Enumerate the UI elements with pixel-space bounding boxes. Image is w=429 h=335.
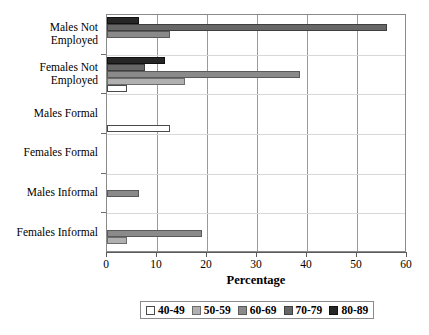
y-axis-tick	[101, 54, 106, 55]
category-separator	[107, 213, 405, 214]
category-separator	[107, 134, 405, 135]
legend-item: 50-59	[192, 304, 231, 316]
gridline	[357, 15, 358, 251]
category-separator	[107, 94, 405, 95]
x-axis-tick	[106, 252, 107, 257]
legend-label: 40-49	[158, 304, 185, 316]
x-axis-tick	[206, 252, 207, 257]
x-axis-tick-label: 10	[136, 258, 176, 271]
gridline	[257, 15, 258, 251]
y-axis-label: Females Formal	[0, 146, 98, 159]
category-separator	[107, 55, 405, 56]
bar	[107, 57, 165, 64]
x-axis-tick-label: 60	[386, 258, 426, 271]
bar	[107, 237, 127, 244]
bar	[107, 17, 139, 24]
bar	[107, 31, 170, 38]
legend-swatch-icon	[146, 306, 155, 315]
legend-swatch-icon	[238, 306, 247, 315]
y-axis-label: Males Not Employed	[0, 21, 98, 47]
legend-item: 80-89	[329, 304, 368, 316]
legend-label: 60-69	[250, 304, 277, 316]
bar	[107, 78, 185, 85]
x-axis-tick	[406, 252, 407, 257]
y-axis-tick	[101, 173, 106, 174]
y-axis-tick	[101, 133, 106, 134]
chart-legend: 40-4950-5960-6970-7980-89	[140, 301, 374, 319]
bar	[107, 24, 387, 31]
bar	[107, 71, 300, 78]
y-axis-label: Males Formal	[0, 107, 98, 120]
y-axis-label: Females Not Employed	[0, 61, 98, 87]
legend-swatch-icon	[284, 306, 293, 315]
legend-item: 40-49	[146, 304, 185, 316]
x-axis-tick-label: 20	[186, 258, 226, 271]
legend-item: 60-69	[238, 304, 277, 316]
y-axis-tick	[101, 93, 106, 94]
legend-label: 80-89	[341, 304, 368, 316]
x-axis-tick	[156, 252, 157, 257]
x-axis-tick	[256, 252, 257, 257]
legend-label: 50-59	[204, 304, 231, 316]
gridline	[307, 15, 308, 251]
x-axis-tick-label: 40	[286, 258, 326, 271]
legend-swatch-icon	[192, 306, 201, 315]
y-axis-tick	[101, 212, 106, 213]
bar	[107, 64, 145, 71]
y-axis-label: Males Informal	[0, 186, 98, 199]
category-separator	[107, 174, 405, 175]
gridline	[157, 15, 158, 251]
x-axis-tick	[306, 252, 307, 257]
y-axis-label: Females Informal	[0, 226, 98, 239]
x-axis-tick	[356, 252, 357, 257]
bar	[107, 230, 202, 237]
gridline	[207, 15, 208, 251]
x-axis-tick-label: 50	[336, 258, 376, 271]
legend-swatch-icon	[329, 306, 338, 315]
plot-area	[106, 14, 406, 252]
legend-item: 70-79	[284, 304, 323, 316]
bar	[107, 190, 139, 197]
bar	[107, 85, 127, 92]
x-axis-title: Percentage	[106, 273, 406, 288]
bar-chart: Males Not EmployedFemales Not EmployedMa…	[0, 0, 429, 335]
x-axis-tick-label: 30	[236, 258, 276, 271]
bar	[107, 125, 170, 132]
legend-label: 70-79	[296, 304, 323, 316]
x-axis-tick-label: 0	[86, 258, 126, 271]
y-axis-labels: Males Not EmployedFemales Not EmployedMa…	[0, 14, 102, 252]
